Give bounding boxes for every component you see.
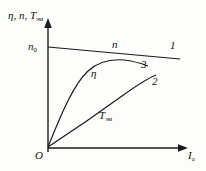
y-tick-label-subscript: 0 xyxy=(34,46,37,53)
curve-number-2: 2 xyxy=(152,76,158,87)
y-axis-label: η, n, Tэм xyxy=(8,10,43,22)
curve-number-1: 1 xyxy=(170,40,176,51)
x-axis-label-subscript: а xyxy=(192,155,195,162)
y-axis xyxy=(44,18,52,152)
curve-number-3: 3 xyxy=(141,59,147,70)
y-axis-label-text: η, n, T xyxy=(8,9,36,21)
curve-efficiency-eta xyxy=(48,60,148,147)
curve-label-torque: Tэм xyxy=(99,110,112,122)
plot-canvas xyxy=(0,0,206,171)
x-axis xyxy=(48,144,188,152)
curve-label-torque-subscript: эм xyxy=(105,115,112,122)
curve-label-efficiency: η xyxy=(91,68,96,79)
y-tick-label-n0: n0 xyxy=(28,41,37,53)
origin-label: O xyxy=(35,150,43,161)
figure-root: η, n, Tэм Iа n0 O n η Tэм 1 2 3 xyxy=(0,0,206,171)
y-axis-label-subscript: эм xyxy=(36,15,43,22)
curve-label-speed: n xyxy=(112,39,118,50)
x-axis-label: Iа xyxy=(188,150,195,162)
